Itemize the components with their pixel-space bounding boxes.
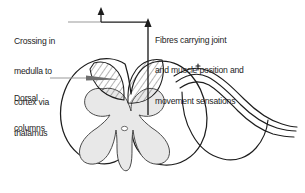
label-fibres-line-3: movement sensations bbox=[155, 96, 244, 106]
label-fibres-line-2: and muscle position and bbox=[155, 65, 244, 75]
label-dorsal-line-2: columns bbox=[14, 123, 45, 133]
crossing-arrowhead bbox=[98, 7, 105, 15]
figure-root: Crossing in medulla to cortex via thalam… bbox=[0, 0, 305, 193]
label-crossing-line-1: Crossing in bbox=[14, 36, 55, 46]
label-fibres-line-1: Fibres carrying joint bbox=[155, 35, 244, 45]
central-canal bbox=[121, 126, 127, 130]
crossing-annotation-arrow bbox=[68, 7, 148, 22]
label-dorsal-line-1: Dorsal bbox=[14, 93, 45, 103]
label-dorsal-columns: Dorsal columns bbox=[14, 72, 45, 154]
label-fibres-carrying-joint: Fibres carrying joint and muscle positio… bbox=[155, 14, 244, 127]
